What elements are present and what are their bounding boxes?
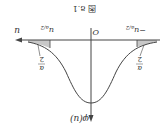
y-axis-label: φ(u) [69,114,89,124]
right-tail-label-den: 2 [40,55,44,63]
right-tail-shade [28,40,50,48]
left-tick-label: −uα/2 [126,25,146,35]
figure-caption: 图 8.1 [73,4,96,13]
x-axis-label: u [14,26,20,36]
right-tick-label: uα/2 [41,25,54,35]
origin-label: O [92,28,99,37]
normal-distribution-figure: φ(u) u O −uα/2 uα/2 α 2 α 2 图 8.1 [0,0,168,138]
left-tail-label-den: 2 [138,55,142,63]
left-tail-label-num: α [137,64,142,72]
figure-svg: φ(u) u O −uα/2 uα/2 α 2 α 2 图 8.1 [0,0,168,138]
right-tail-label-num: α [39,64,44,72]
y-axis-arrow-icon [89,115,94,122]
left-tail-shade [137,40,157,47]
x-axis-arrow-icon [15,38,22,43]
bell-curve [28,42,157,103]
